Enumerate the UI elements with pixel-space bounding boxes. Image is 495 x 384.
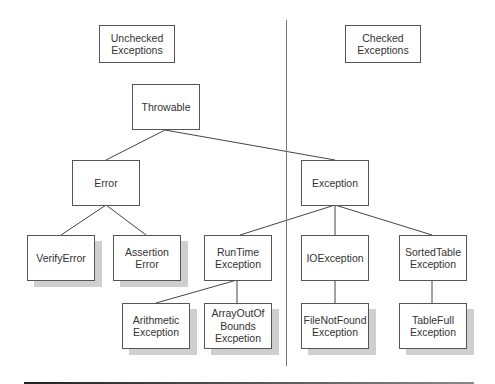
exception-hierarchy-diagram: Unchecked Exceptions Checked Exceptions …	[0, 0, 495, 384]
node-table-full-exception: TableFull Exception	[399, 303, 467, 349]
legend-unchecked-exceptions: Unchecked Exceptions	[99, 25, 175, 63]
node-label: Throwable	[141, 101, 190, 114]
node-label: TableFull Exception	[410, 314, 456, 339]
node-label: IOException	[306, 252, 363, 265]
node-io-exception: IOException	[301, 235, 369, 281]
legend-unchecked-label: Unchecked Exceptions	[111, 32, 164, 57]
node-label: RunTime Exception	[215, 246, 261, 271]
node-label: VerifyError	[36, 252, 86, 265]
node-label: SortedTable Exception	[405, 246, 461, 271]
node-label: Arithmetic Exception	[133, 314, 180, 339]
node-label: Exception	[312, 177, 358, 190]
node-verify-error: VerifyError	[27, 235, 95, 281]
node-label: Assertion Error	[125, 246, 169, 271]
node-label: Error	[94, 177, 117, 190]
node-label: ArrayOutOf Bounds Excpetion	[211, 307, 264, 345]
node-error: Error	[72, 160, 140, 206]
legend-checked-exceptions: Checked Exceptions	[345, 25, 421, 63]
node-label: FileNotFound Exception	[303, 314, 366, 339]
node-array-out-of-bounds-exception: ArrayOutOf Bounds Excpetion	[204, 303, 272, 349]
node-assertion-error: Assertion Error	[113, 235, 181, 281]
node-sorted-table-exception: SortedTable Exception	[399, 235, 467, 281]
node-exception: Exception	[301, 160, 369, 206]
node-runtime-exception: RunTime Exception	[204, 235, 272, 281]
legend-checked-label: Checked Exceptions	[357, 32, 408, 57]
unchecked-checked-divider	[286, 20, 287, 366]
node-file-not-found-exception: FileNotFound Exception	[301, 303, 369, 349]
node-arithmetic-exception: Arithmetic Exception	[122, 303, 190, 349]
node-throwable: Throwable	[132, 84, 200, 130]
